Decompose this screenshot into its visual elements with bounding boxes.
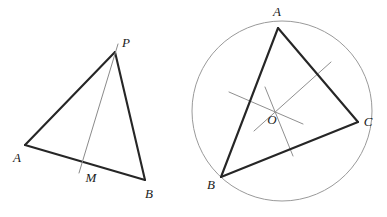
geometry-figure-root: P A B M A B C O [0, 0, 387, 217]
circumcircle [192, 21, 372, 201]
segment-P-B [115, 52, 145, 180]
label-point-O-center: O [267, 112, 277, 127]
label-point-P: P [121, 35, 130, 50]
label-point-C-right: C [364, 114, 373, 129]
segment-C-A-right [278, 28, 358, 122]
cevian-line-P-M [79, 44, 118, 173]
segment-A-B-right [221, 28, 278, 177]
geometry-svg-canvas: P A B M A B C O [0, 0, 387, 217]
label-point-M: M [85, 170, 98, 185]
perpendicular-bisector-AC [254, 62, 331, 131]
left-figure-group: P A B M [12, 35, 153, 201]
label-point-A-left: A [12, 150, 21, 165]
right-figure-group: A B C O [192, 4, 373, 201]
label-point-B-right: B [207, 177, 215, 192]
segment-B-C-right [221, 122, 358, 177]
label-point-A-right: A [272, 4, 281, 19]
label-point-B-left: B [145, 186, 153, 201]
